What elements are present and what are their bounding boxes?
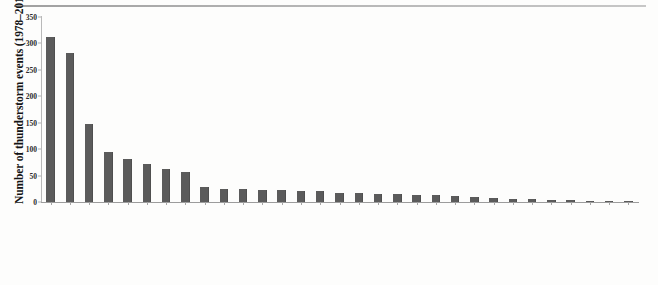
y-axis-tick-mark (38, 96, 41, 97)
plot-area: 050100150200250300350 (41, 17, 638, 202)
bar (355, 193, 364, 202)
x-axis-tick-mark (474, 202, 475, 205)
y-axis-tick-mark (38, 202, 41, 203)
bar (393, 194, 402, 202)
y-axis-tick-mark (38, 17, 41, 18)
x-axis-tick-mark (609, 202, 610, 205)
bar (277, 190, 286, 202)
y-axis-tick-mark (38, 175, 41, 176)
bar (123, 159, 132, 202)
y-axis-title: Number of thunderstorm events (1978–2012… (13, 8, 25, 204)
bar (239, 189, 248, 202)
y-axis-tick-mark (38, 122, 41, 123)
bar (335, 193, 344, 203)
x-axis-tick-mark (128, 202, 129, 205)
bar (220, 189, 229, 202)
x-axis-tick-mark (359, 202, 360, 205)
x-axis-tick-mark (590, 202, 591, 205)
bar (143, 164, 152, 202)
x-axis-tick-mark (262, 202, 263, 205)
chart-figure: Number of thunderstorm events (1978–2012… (0, 0, 658, 285)
x-axis-tick-mark (340, 202, 341, 205)
x-axis-tick-mark (417, 202, 418, 205)
bar (181, 172, 190, 202)
x-axis-tick-mark (70, 202, 71, 205)
page-edge-line (14, 5, 646, 7)
x-axis-tick-mark (320, 202, 321, 205)
x-axis-tick-mark (89, 202, 90, 205)
bar (162, 169, 171, 202)
x-axis-tick-mark (282, 202, 283, 205)
bar (258, 190, 267, 202)
x-axis-tick-mark (108, 202, 109, 205)
bar (316, 191, 325, 202)
x-axis-tick-mark (571, 202, 572, 205)
x-axis-tick-mark (513, 202, 514, 205)
x-axis-tick-mark (205, 202, 206, 205)
x-axis-tick-mark (436, 202, 437, 205)
x-axis-tick-mark (166, 202, 167, 205)
x-axis-tick-mark (628, 202, 629, 205)
x-axis-tick-mark (551, 202, 552, 205)
x-axis-tick-mark (185, 202, 186, 205)
x-axis-tick-mark (301, 202, 302, 205)
x-axis-tick-mark (494, 202, 495, 205)
x-axis-tick-mark (455, 202, 456, 205)
bar (374, 194, 383, 202)
x-axis-tick-mark (147, 202, 148, 205)
y-axis-tick-mark (38, 43, 41, 44)
y-axis-tick-mark (38, 149, 41, 150)
x-axis-tick-mark (397, 202, 398, 205)
bar (297, 191, 306, 202)
bar (104, 152, 113, 202)
bar (412, 195, 421, 202)
x-axis-tick-mark (532, 202, 533, 205)
x-axis-tick-mark (51, 202, 52, 205)
bar (66, 53, 75, 202)
y-axis-tick-mark (38, 69, 41, 70)
x-axis-tick-mark (243, 202, 244, 205)
bar (85, 124, 94, 202)
x-axis-tick-mark (224, 202, 225, 205)
bar (432, 195, 441, 202)
bar (46, 37, 55, 202)
bar (200, 187, 209, 202)
x-axis-tick-mark (378, 202, 379, 205)
